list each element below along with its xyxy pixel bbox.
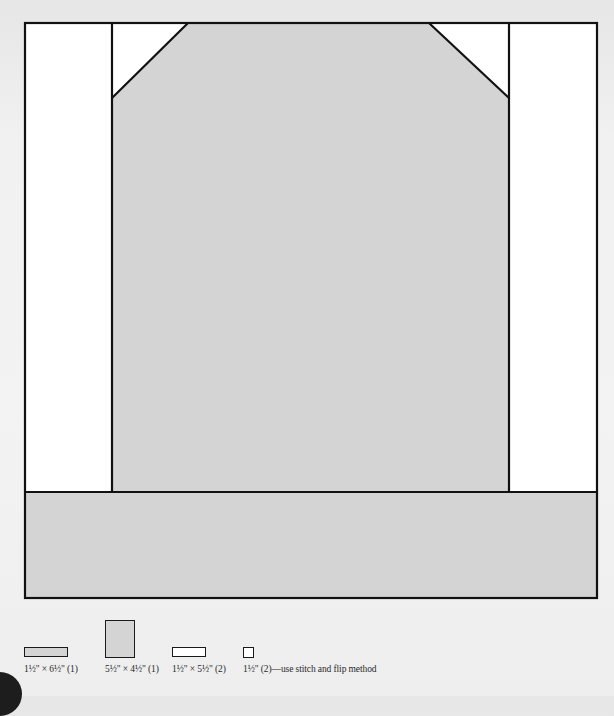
legend-swatch-bottom-strip bbox=[24, 647, 68, 657]
page-number-tab bbox=[0, 672, 22, 716]
legend-label-corner-square: 1½" (2)—use stitch and flip method bbox=[243, 664, 376, 674]
center-panel bbox=[112, 23, 509, 492]
left-side-strip bbox=[25, 23, 112, 492]
right-side-strip bbox=[509, 23, 597, 492]
legend-swatch-center-panel bbox=[105, 620, 135, 658]
legend-swatch-side-strip bbox=[172, 647, 206, 657]
legend-label-center-panel: 5½" × 4½" (1) bbox=[105, 664, 159, 674]
legend-label-bottom-strip: 1½" × 6½" (1) bbox=[24, 664, 78, 674]
bottom-strip bbox=[25, 492, 597, 598]
legend-label-side-strip: 1½" × 5½" (2) bbox=[172, 664, 226, 674]
quilt-block-diagram bbox=[0, 0, 614, 610]
legend-swatch-corner-square bbox=[243, 647, 254, 658]
